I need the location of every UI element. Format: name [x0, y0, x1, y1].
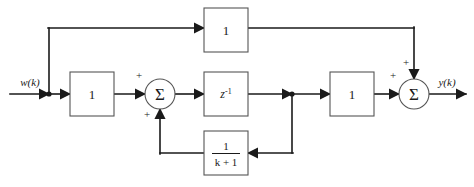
sum-left-sign-bottom: +: [144, 108, 150, 120]
block-feedback-numerator: 1: [223, 140, 229, 152]
block-diagram-svg: 1 1 z-1 1 1 k + 1 Σ + + Σ + +: [0, 0, 474, 187]
junction-dot-input-branch: [46, 91, 51, 96]
block-top-gain-label: 1: [223, 23, 230, 38]
block-feedback-denominator: k + 1: [215, 156, 238, 168]
junction-dot-delay-output: [289, 91, 294, 96]
sum-right-sign-top: +: [403, 56, 409, 68]
summing-junction-right-glyph: Σ: [409, 85, 419, 104]
summing-junction-left-glyph: Σ: [155, 85, 165, 104]
block-output-gain-label: 1: [349, 87, 356, 102]
block-diagram-canvas: 1 1 z-1 1 1 k + 1 Σ + + Σ + +: [0, 0, 474, 187]
sum-left-sign-top: +: [136, 69, 142, 81]
input-signal-label: w(k): [20, 76, 40, 89]
delay-exponent: -1: [225, 87, 232, 96]
output-signal-label: y(k): [437, 76, 455, 89]
sum-right-sign-left: +: [390, 69, 396, 81]
block-input-gain-label: 1: [89, 87, 96, 102]
